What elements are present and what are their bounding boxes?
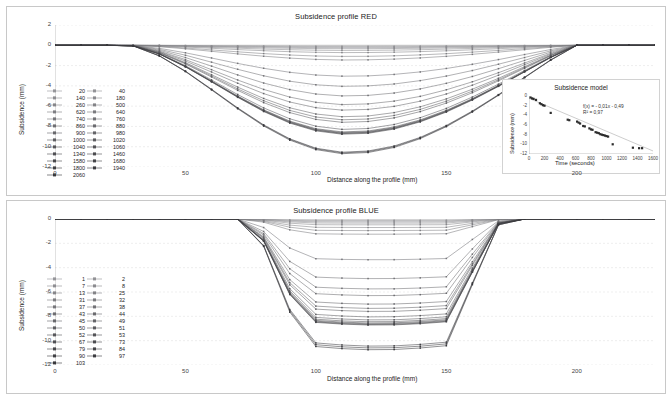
series-marker [393,222,395,224]
series-marker [367,224,369,226]
series-marker [472,226,474,228]
series-marker [185,60,187,62]
series-marker [237,49,239,51]
legend-row: 103 [47,359,127,366]
y-tick: -6 [29,102,51,108]
legend-label: 40 [105,87,127,94]
series-marker [524,62,526,64]
series-marker [550,57,552,59]
legend-label: 500 [105,101,127,108]
series-marker [315,49,317,51]
series-marker [446,305,448,307]
series-marker [237,79,239,81]
series-marker [315,126,317,128]
series-line [55,219,655,304]
legend-red[interactable]: 2040140180260500620640740760860880900980… [47,87,127,178]
series-marker [341,48,343,50]
series-marker [446,100,448,102]
series-marker [263,50,265,52]
y-tick: -2 [29,62,51,68]
series-marker [315,344,317,346]
legend-key [87,317,105,324]
series-marker [420,222,422,224]
inset-y-tick: -8 [515,132,527,137]
series-marker [472,48,474,50]
legend-label: 84 [105,345,127,352]
series-line [55,219,655,325]
series-marker [393,51,395,53]
series-marker [315,107,317,109]
series-marker [393,106,395,108]
series-marker [315,119,317,121]
series-marker [498,75,500,77]
series-marker [420,100,422,102]
legend-label: 900 [65,129,87,136]
legend-row: 78 [47,282,127,289]
plot-svg-blue [55,219,655,365]
legend-row: 6773 [47,338,127,345]
series-marker [237,83,239,85]
series-marker [289,279,291,281]
legend-swatch-icon [87,311,102,317]
series-marker [237,94,239,96]
series-marker [393,278,395,280]
legend-key [87,310,105,317]
legend-row: 5051 [47,324,127,331]
legend-label: 1940 [105,164,127,171]
series-marker [341,109,343,111]
legend-label: 37 [65,303,87,310]
series-marker [341,294,343,296]
series-marker [472,257,474,259]
legend-swatch-icon [47,346,62,352]
legend-key [87,352,105,359]
legend-row: 9097 [47,352,127,359]
series-marker [263,53,265,55]
series-marker [420,117,422,119]
series-marker [446,229,448,231]
series-marker [446,308,448,310]
x-axis-label-blue: Distance along the profile (mm) [327,375,417,382]
x-tick: 50 [173,368,197,374]
series-marker [341,59,343,61]
series-marker [289,229,291,231]
series-marker [446,68,448,70]
legend-label: 67 [65,338,87,345]
y-tick: -6 [29,288,51,294]
series-marker [393,100,395,102]
series-marker [420,106,422,108]
legend-label: 640 [105,108,127,115]
series-marker [315,286,317,288]
series-line [55,219,655,279]
inset-subsidence-model: Subsidence model Subsidence (mm) Time (s… [502,79,660,174]
y-tick: -4 [29,82,51,88]
series-marker [289,311,291,313]
legend-blue[interactable]: 1278132531323738434445495051525367737984… [47,275,127,366]
series-marker [80,219,82,220]
series-marker [446,345,448,347]
series-marker [472,223,474,225]
series-marker [367,118,369,120]
series-marker [446,48,448,50]
series-marker [367,316,369,318]
series-marker [289,72,291,74]
series-marker [341,233,343,235]
series-marker [341,224,343,226]
series-marker [289,57,291,59]
series-marker [602,45,604,47]
series-marker [550,49,552,51]
series-marker [185,52,187,54]
series-marker [498,68,500,70]
series-marker [237,86,239,88]
series-marker [420,71,422,73]
legend-key [87,87,105,94]
legend-label: 880 [105,122,127,129]
series-marker [237,69,239,71]
series-marker [393,58,395,60]
series-marker [367,259,369,261]
legend-key [47,324,65,331]
series-marker [367,75,369,77]
series-marker [446,293,448,295]
legend-label: 79 [65,345,87,352]
series-marker [420,48,422,50]
series-marker [446,111,448,113]
